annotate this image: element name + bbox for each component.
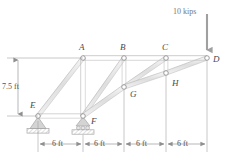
joint-label-C: C: [162, 43, 168, 52]
dimension-label-span-4: 6 ft: [177, 140, 188, 148]
dimension-label-span-2: 6 ft: [94, 140, 105, 148]
truss-diagram-figure: A B C D E F G H 10 kips 7.5 ft 6 ft 6 ft…: [0, 0, 240, 159]
joint-H: [164, 71, 169, 76]
joint-label-H: H: [172, 79, 179, 88]
joint-D: [205, 56, 210, 61]
member-E-A-outline: [36, 57, 81, 115]
joint-F: [81, 114, 86, 119]
joint-label-B: B: [120, 43, 126, 52]
dimension-label-span-1: 6 ft: [52, 140, 63, 148]
dimension-label-span-3: 6 ft: [136, 140, 147, 148]
joint-label-D: D: [213, 55, 220, 64]
joint-C: [164, 56, 169, 61]
joint-label-F: F: [91, 117, 97, 126]
joint-G: [122, 85, 127, 90]
member-H-D-outline2: [167, 60, 208, 75]
joint-label-G: G: [130, 90, 137, 99]
member-F-B: [83, 58, 124, 116]
member-E-A: [38, 58, 83, 116]
joint-B: [122, 56, 127, 61]
member-E-A-outline2: [40, 59, 85, 117]
joint-label-E: E: [30, 101, 36, 110]
joint-label-A: A: [79, 43, 85, 52]
truss-svg-canvas: [0, 0, 240, 159]
dimension-label-vertical: 7.5 ft: [2, 83, 19, 91]
member-F-B-outline: [81, 57, 122, 115]
member-F-G: [83, 87, 124, 116]
load-label-10kips: 10 kips: [173, 8, 196, 16]
